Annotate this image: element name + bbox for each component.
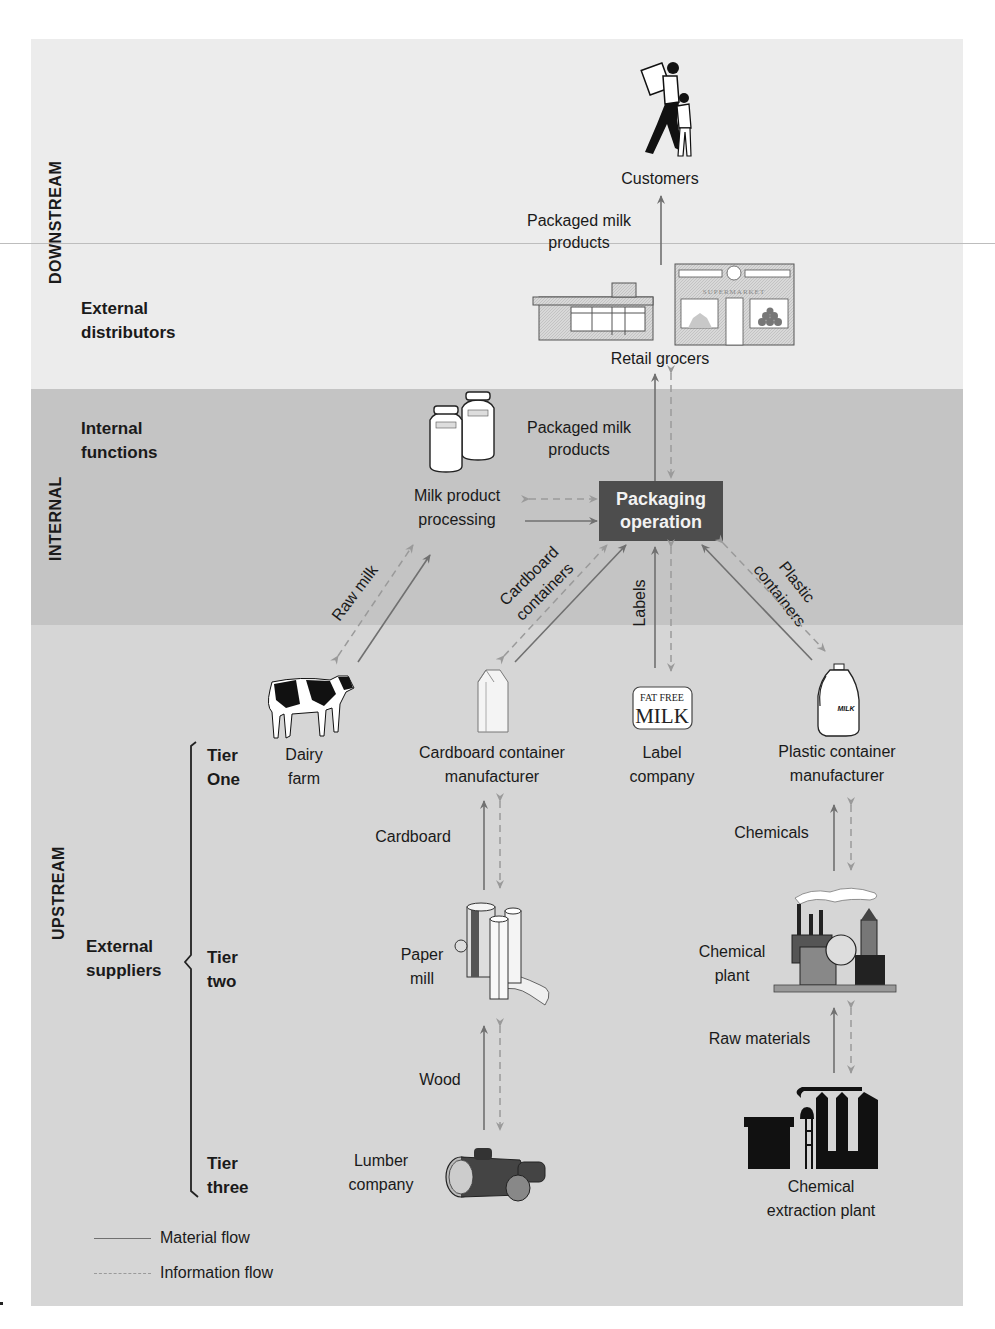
svg-text:MILK: MILK (837, 705, 855, 712)
factory-illustration (774, 888, 896, 992)
solid-line-swatch (94, 1238, 151, 1239)
grocery-store-illustration: SUPERMARKET (533, 264, 794, 345)
legend-material-flow: Material flow (94, 1229, 250, 1247)
paper-rolls-illustration (455, 903, 549, 1005)
stray-dot (0, 1302, 3, 1305)
customers-illustration (641, 62, 691, 156)
extraction-plant-illustration (744, 1087, 878, 1169)
legend-material-label: Material flow (160, 1229, 250, 1247)
legend-information-flow: Information flow (94, 1264, 273, 1282)
milk-cans-illustration (430, 392, 494, 472)
legend-information-label: Information flow (160, 1264, 273, 1282)
tier-brace (185, 742, 198, 1197)
svg-text:FAT FREE: FAT FREE (640, 692, 684, 703)
milk-label-illustration: FAT FREE MILK (633, 687, 692, 729)
dashed-line-swatch (94, 1273, 151, 1274)
milk-jug-illustration: MILK (818, 664, 859, 736)
information-flow-arrows (338, 373, 851, 1130)
cow-illustration (268, 676, 354, 738)
logs-illustration (446, 1148, 545, 1201)
svg-text:MILK: MILK (635, 704, 689, 728)
milk-carton-illustration (478, 670, 508, 732)
svg-text:SUPERMARKET: SUPERMARKET (703, 288, 765, 296)
diagram-graphics: SUPERMARKET FAT FREE MILK (0, 0, 995, 1329)
